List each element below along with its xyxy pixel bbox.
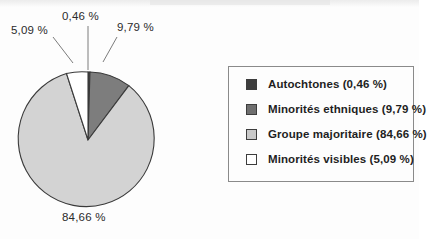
legend-item-minorites-ethniques: Minorités ethniques (9,79 %) bbox=[246, 102, 426, 116]
legend-swatch-autochtones bbox=[246, 79, 257, 90]
legend-item-minorites-visibles: Minorités visibles (5,09 %) bbox=[246, 152, 414, 166]
leader-line-visibles bbox=[53, 37, 73, 63]
legend-swatch-groupe-majoritaire bbox=[246, 129, 257, 140]
legend-item-groupe-majoritaire: Groupe majoritaire (84,66 %) bbox=[246, 127, 427, 141]
chart-legend: Autochtones (0,46 %) Minorités ethniques… bbox=[228, 66, 414, 182]
legend-item-autochtones: Autochtones (0,46 %) bbox=[246, 77, 387, 91]
pie-chart: 5,09 % 0,46 % 9,79 % 84,66 % bbox=[0, 0, 210, 239]
legend-label-groupe-majoritaire: Groupe majoritaire (84,66 %) bbox=[268, 128, 427, 140]
pie-label-autochtones: 0,46 % bbox=[62, 10, 99, 22]
legend-swatch-minorites-visibles bbox=[246, 154, 257, 165]
legend-swatch-minorites-ethniques bbox=[246, 104, 257, 115]
pie-label-groupe-majoritaire: 84,66 % bbox=[62, 211, 106, 223]
legend-label-autochtones: Autochtones (0,46 %) bbox=[268, 78, 387, 90]
legend-label-minorites-visibles: Minorités visibles (5,09 %) bbox=[268, 153, 414, 165]
leader-line-ethniques bbox=[103, 37, 117, 62]
legend-label-minorites-ethniques: Minorités ethniques (9,79 %) bbox=[268, 103, 426, 115]
pie-label-minorites-ethniques: 9,79 % bbox=[117, 21, 154, 33]
pie-label-minorites-visibles: 5,09 % bbox=[11, 24, 48, 36]
